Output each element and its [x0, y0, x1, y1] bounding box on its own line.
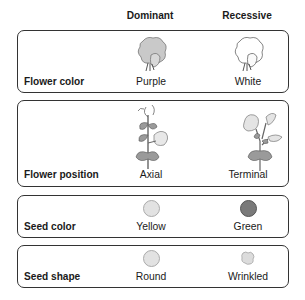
- dominant-value: Purple: [115, 75, 187, 87]
- trait-label: Seed color: [24, 220, 76, 232]
- recessive-value: White: [212, 75, 284, 87]
- trait-label: Flower color: [24, 75, 84, 87]
- axial-flower-plant-icon: [126, 103, 176, 171]
- trait-row-flower-color: Flower color Purple White: [17, 30, 289, 93]
- round-seed-icon: [143, 250, 160, 267]
- yellow-seed-icon: [143, 200, 160, 217]
- terminal-flower-plant-icon: [240, 111, 288, 173]
- dominant-value: Axial: [115, 168, 187, 180]
- white-flower-icon: [230, 35, 268, 73]
- header-recessive: Recessive: [212, 9, 282, 21]
- recessive-value: Wrinkled: [212, 270, 284, 282]
- header-dominant: Dominant: [115, 9, 185, 21]
- trait-row-seed-shape: Seed shape Round Wrinkled: [17, 245, 289, 288]
- purple-flower-icon: [133, 35, 171, 73]
- trait-row-flower-position: Flower position Axial Terminal: [17, 100, 289, 187]
- trait-label: Seed shape: [24, 270, 80, 282]
- recessive-value: Terminal: [212, 168, 284, 180]
- recessive-value: Green: [212, 220, 284, 232]
- green-seed-icon: [240, 200, 257, 217]
- dominant-value: Yellow: [115, 220, 187, 232]
- trait-label: Flower position: [24, 168, 99, 180]
- dominant-value: Round: [115, 270, 187, 282]
- trait-row-seed-color: Seed color Yellow Green: [17, 195, 289, 238]
- wrinkled-seed-icon: [240, 250, 256, 266]
